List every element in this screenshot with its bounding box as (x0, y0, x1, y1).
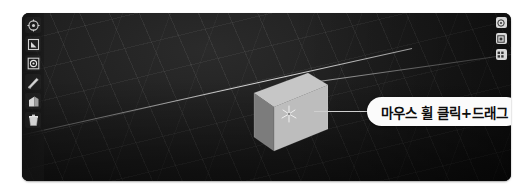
view-top-icon (497, 19, 505, 27)
grid-settings-button[interactable] (496, 49, 507, 60)
view-top-button[interactable] (496, 17, 507, 28)
right-icon-strip[interactable] (493, 17, 509, 65)
page-root: 마우스 휠 클릭+드래그 (0, 0, 531, 193)
callout-leader-line (314, 111, 370, 112)
view-front-icon (497, 35, 505, 43)
grid-settings-icon (497, 51, 505, 59)
tool-orbit-target-button[interactable] (25, 17, 41, 33)
tool-snap-button[interactable] (25, 55, 41, 71)
orbit-target-icon (27, 19, 40, 32)
left-toolbar[interactable] (22, 13, 44, 181)
polygon-shape-icon (27, 95, 40, 108)
square-select-icon (27, 38, 40, 51)
3d-viewport[interactable]: 마우스 휠 클릭+드래그 (22, 13, 511, 181)
view-front-button[interactable] (496, 33, 507, 44)
tool-delete-button[interactable] (25, 112, 41, 128)
pen-line-icon (27, 76, 40, 89)
callout-label: 마우스 휠 클릭+드래그 (381, 102, 507, 122)
trash-bin-icon (27, 114, 40, 127)
tool-select-button[interactable] (25, 36, 41, 52)
circle-in-square-icon (27, 57, 40, 70)
tool-shape-button[interactable] (25, 93, 41, 109)
tool-line-button[interactable] (25, 74, 41, 90)
callout-bubble: 마우스 휠 클릭+드래그 (367, 97, 511, 126)
